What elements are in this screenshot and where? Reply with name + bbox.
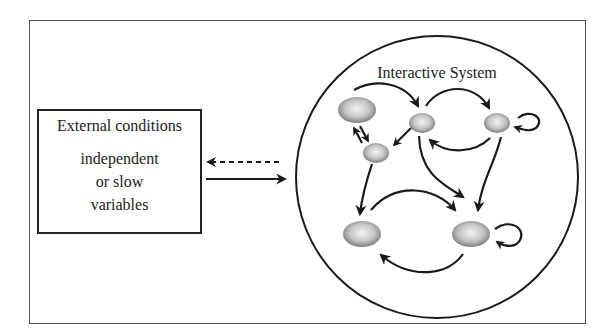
system-node bbox=[363, 143, 389, 163]
system-node bbox=[343, 221, 381, 247]
system-node bbox=[452, 221, 490, 247]
system-title: Interactive System bbox=[377, 64, 497, 82]
system-node bbox=[338, 97, 376, 123]
system-diagram: Interactive System bbox=[0, 0, 616, 336]
interaction-edges bbox=[354, 83, 539, 272]
system-node bbox=[409, 113, 435, 133]
system-node bbox=[484, 113, 510, 133]
